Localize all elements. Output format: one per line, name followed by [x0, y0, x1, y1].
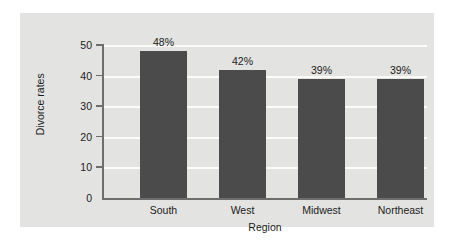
bar-midwest[interactable] — [298, 79, 345, 198]
y-tick-10 — [96, 166, 102, 168]
y-axis-title: Divorce rates — [35, 54, 46, 154]
y-tick-label-0: 0 — [68, 193, 92, 204]
y-axis-line — [102, 44, 104, 199]
chart-figure: 50 40 30 20 10 0 48% 42% 39% 39% South W… — [0, 0, 454, 242]
y-tick-20 — [96, 136, 102, 138]
bar-west[interactable] — [219, 70, 266, 199]
bar-value-west: 42% — [219, 56, 266, 67]
y-tick-30 — [96, 105, 102, 107]
y-tick-label-40: 40 — [68, 71, 92, 82]
bar-value-northeast: 39% — [377, 65, 424, 76]
y-tick-label-20: 20 — [68, 132, 92, 143]
chart-panel: 50 40 30 20 10 0 48% 42% 39% 39% South W… — [20, 13, 434, 227]
y-tick-50 — [96, 44, 102, 46]
x-tick-label-south: South — [130, 205, 197, 216]
bar-value-midwest: 39% — [298, 65, 345, 76]
y-tick-labels: 50 40 30 20 10 0 — [64, 13, 92, 242]
y-tick-label-50: 50 — [68, 40, 92, 51]
x-tick-label-midwest: Midwest — [288, 205, 355, 216]
x-tick-label-west: West — [209, 205, 276, 216]
x-axis-title: Region — [103, 222, 427, 233]
x-tick-label-northeast: Northeast — [367, 205, 434, 216]
x-axis-line — [102, 198, 427, 200]
bar-value-south: 48% — [140, 37, 187, 48]
bar-south[interactable] — [140, 51, 187, 198]
y-tick-label-10: 10 — [68, 162, 92, 173]
bar-northeast[interactable] — [377, 79, 424, 198]
y-tick-40 — [96, 75, 102, 77]
y-tick-label-30: 30 — [68, 101, 92, 112]
